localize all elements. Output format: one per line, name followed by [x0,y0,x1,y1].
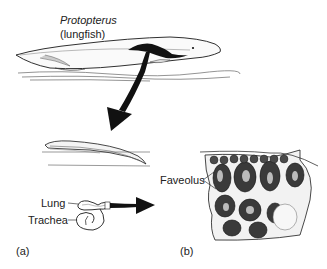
diagram-illustration [0,0,327,269]
faveolus-tissue-icon [200,150,318,240]
lungfish-burrow-icon [42,141,150,166]
lung-trachea-icon [68,201,110,230]
lung-label: Lung [41,198,65,209]
panel-a-label: (a) [16,246,29,257]
lungfish-lung-diagram: Protopterus (lungfish) Lung Trachea (a) … [0,0,327,269]
ground-lines [18,71,240,81]
trachea-label: Trachea [28,215,68,226]
panel-b-label: (b) [180,246,193,257]
species-name-label: Protopterus [60,15,117,26]
arrow-right-icon [110,197,155,214]
common-name-label: (lungfish) [60,29,105,40]
faveolus-label: Faveolus [160,175,205,186]
lungfish-top-icon [16,37,220,70]
